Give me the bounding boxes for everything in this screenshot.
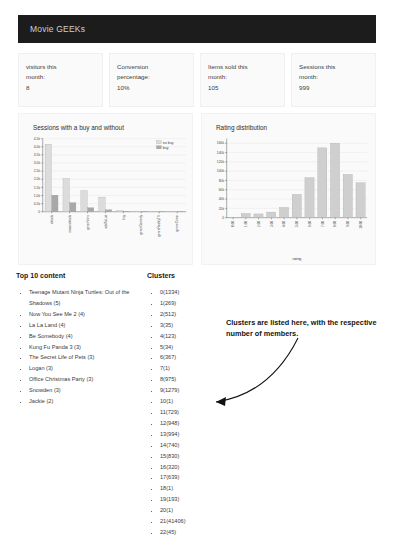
list-item: 19(193) — [160, 494, 247, 505]
dashboard-page: Movie GEEKs visitors this month: 8 Conve… — [0, 0, 394, 541]
stat-label-line2: month: — [26, 72, 95, 82]
svg-text:1.5k: 1.5k — [34, 186, 41, 190]
svg-text:2.00: 2.00 — [257, 221, 261, 227]
svg-text:60k: 60k — [219, 188, 225, 192]
chart-card-sessions-buy: Sessions with a buy and without 00.5k1.0… — [18, 113, 193, 265]
stat-label-line1: Items sold this — [208, 62, 277, 72]
svg-text:addToList: addToList — [104, 215, 108, 229]
list-item: Teenage Mutant Ninja Turtles: Out of the… — [29, 287, 146, 309]
svg-text:genreComedy: genreComedy — [139, 214, 143, 234]
svg-text:3.00: 3.00 — [270, 221, 274, 227]
stat-value: 999 — [299, 83, 368, 93]
stat-label-line2: month: — [208, 72, 277, 82]
list-item: 1(269) — [160, 298, 247, 309]
svg-text:2.5k: 2.5k — [34, 169, 41, 173]
svg-text:genreView: genreView — [86, 214, 90, 230]
list-item: 15(830) — [160, 451, 247, 462]
stat-label-line2: percentage: — [117, 72, 186, 82]
stat-card-visitors: visitors this month: 8 — [18, 53, 103, 107]
svg-text:7.00: 7.00 — [321, 221, 325, 227]
list-item: The Secret Life of Pets (3) — [29, 352, 146, 363]
list-item: 18(1) — [160, 483, 247, 494]
svg-text:100k: 100k — [217, 169, 225, 173]
svg-text:8.00: 8.00 — [333, 221, 337, 227]
top-content-column: Top 10 content Teenage Mutant Ninja Turt… — [16, 272, 146, 407]
svg-text:moviedetails: moviedetails — [68, 214, 72, 232]
list-item: Logan (3) — [29, 363, 146, 374]
top-content-list: Teenage Mutant Ninja Turtles: Out of the… — [16, 287, 146, 407]
svg-text:buy: buy — [122, 214, 126, 220]
list-item: 22(45) — [160, 527, 247, 538]
stat-value: 8 — [26, 83, 95, 93]
svg-text:80k: 80k — [219, 179, 225, 183]
svg-text:10.00: 10.00 — [359, 221, 363, 229]
svg-text:4.0k: 4.0k — [34, 145, 41, 149]
svg-text:9.00: 9.00 — [346, 221, 350, 227]
svg-text:0: 0 — [38, 210, 40, 214]
stat-label-line1: Sessions this — [299, 62, 368, 72]
chart-rating-distribution-svg: 020k40k60k80k100k120k140k160k0.001.002.0… — [202, 114, 375, 264]
svg-text:160k: 160k — [217, 141, 225, 145]
list-item: Be Somebody (4) — [29, 331, 146, 342]
list-item: Kung Fu Panda 3 (3) — [29, 342, 146, 353]
app-title: Movie GEEKs — [18, 24, 85, 34]
list-item: Snowden (3) — [29, 385, 146, 396]
chart-row: Sessions with a buy and without 00.5k1.0… — [18, 113, 376, 265]
svg-text:1.0k: 1.0k — [34, 194, 41, 198]
list-item: 17(639) — [160, 472, 247, 483]
app-header: Movie GEEKs — [18, 15, 376, 43]
svg-text:buy: buy — [163, 146, 169, 150]
svg-text:genreCrime: genreCrime — [175, 215, 179, 232]
stat-label-line1: visitors this — [26, 62, 95, 72]
stat-card-items-sold: Items sold this month: 105 — [200, 53, 285, 107]
list-item: La La Land (4) — [29, 320, 146, 331]
svg-text:3.0k: 3.0k — [34, 161, 41, 165]
svg-text:rating: rating — [292, 257, 301, 261]
chart-sessions-buy-svg: 00.5k1.0k1.5k2.0k2.5k3.0k3.5k4.0k4.5kdet… — [19, 114, 192, 264]
list-item: 21(41406) — [160, 516, 247, 527]
svg-text:2.0k: 2.0k — [34, 177, 41, 181]
svg-text:3.5k: 3.5k — [34, 153, 41, 157]
list-item: 14(740) — [160, 440, 247, 451]
stat-card-conversion: Conversion percentage: 10% — [109, 53, 194, 107]
stat-label-line2: month: — [299, 72, 368, 82]
stat-label-line1: Conversion — [117, 62, 186, 72]
svg-text:140k: 140k — [217, 151, 225, 155]
list-item: 13(994) — [160, 429, 247, 440]
clusters-title: Clusters — [147, 272, 247, 279]
svg-text:120k: 120k — [217, 160, 225, 164]
svg-text:20k: 20k — [219, 207, 225, 211]
stat-card-row: visitors this month: 8 Conversion percen… — [18, 53, 376, 107]
annotation-arrow-icon — [186, 330, 306, 430]
svg-text:1.00: 1.00 — [244, 221, 248, 227]
svg-text:5.00: 5.00 — [295, 221, 299, 227]
svg-text:4.00: 4.00 — [282, 221, 286, 227]
list-item: Jackie (2) — [29, 396, 146, 407]
svg-text:0.00: 0.00 — [231, 221, 235, 227]
top-content-title: Top 10 content — [16, 272, 146, 279]
list-item: 16(320) — [160, 462, 247, 473]
list-item: 20(1) — [160, 505, 247, 516]
stat-card-sessions: Sessions this month: 999 — [291, 53, 376, 107]
svg-text:no buy: no buy — [163, 141, 174, 145]
svg-text:genreRealityTV: genreRealityTV — [157, 214, 161, 237]
svg-text:6.00: 6.00 — [308, 221, 312, 227]
list-item: Now You See Me 2 (4) — [29, 309, 146, 320]
svg-text:40k: 40k — [219, 197, 225, 201]
stat-value: 10% — [117, 83, 186, 93]
svg-text:0.5k: 0.5k — [34, 202, 41, 206]
chart-card-rating-distribution: Rating distribution 020k40k60k80k100k120… — [201, 113, 376, 265]
list-item: Office Christmas Party (3) — [29, 374, 146, 385]
svg-text:0: 0 — [222, 216, 224, 220]
list-item: 0(1334) — [160, 287, 247, 298]
svg-text:details: details — [50, 214, 54, 224]
stat-value: 105 — [208, 83, 277, 93]
svg-text:4.5k: 4.5k — [34, 137, 41, 141]
